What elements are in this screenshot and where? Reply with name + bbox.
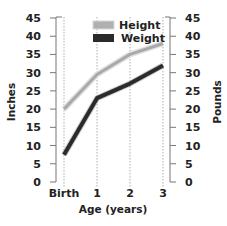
x-axis-labels: Birth123 (49, 187, 167, 200)
left-tick-label: 40 (26, 30, 42, 43)
right-axis-title: Pounds (211, 80, 223, 124)
left-tick-label: 15 (26, 121, 41, 134)
legend-label-height: Height (119, 19, 160, 32)
data-series (64, 44, 163, 155)
left-axis-title: Inches (5, 83, 17, 121)
right-tick-label: 15 (185, 121, 200, 134)
right-tick-label: 35 (185, 48, 200, 61)
right-tick-label: 0 (185, 176, 193, 189)
right-tick-label: 20 (185, 103, 201, 116)
left-tick-label: 0 (33, 176, 41, 189)
series-line-weight (64, 65, 163, 154)
x-tick-label: 1 (93, 187, 101, 200)
right-y-axis: 051015202530354045 (165, 12, 201, 189)
right-tick-label: 5 (185, 158, 193, 171)
left-tick-label: 5 (33, 158, 41, 171)
right-tick-label: 10 (185, 140, 201, 153)
left-y-axis: 051015202530354045 (26, 12, 62, 189)
left-tick-label: 35 (26, 48, 41, 61)
x-tick-label: 2 (126, 187, 134, 200)
right-tick-label: 45 (185, 12, 200, 25)
growth-chart: 051015202530354045 051015202530354045 Bi… (0, 0, 227, 226)
legend-label-weight: Weight (121, 32, 165, 45)
legend-swatch-weight (93, 34, 114, 42)
x-tick-label: 3 (159, 187, 167, 200)
x-tick-label: Birth (49, 187, 80, 200)
x-axis-title: Age (years) (79, 203, 148, 215)
right-tick-label: 25 (185, 85, 200, 98)
left-tick-label: 10 (26, 140, 42, 153)
left-tick-label: 45 (26, 12, 41, 25)
right-tick-label: 40 (185, 30, 201, 43)
right-tick-label: 30 (185, 67, 201, 80)
legend-swatch-height (93, 21, 114, 29)
left-tick-label: 20 (26, 103, 42, 116)
left-tick-label: 25 (26, 85, 41, 98)
left-tick-label: 30 (26, 67, 42, 80)
legend: Height Weight (93, 19, 165, 45)
